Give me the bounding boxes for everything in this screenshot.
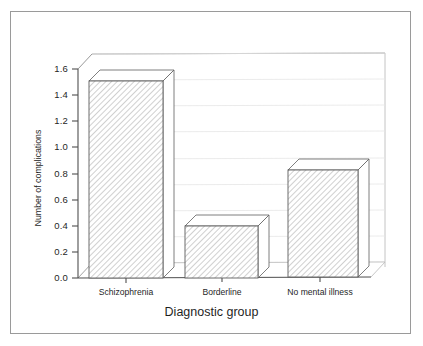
y-axis-title: Number of complications bbox=[33, 113, 43, 243]
bar-no-mental-illness[interactable] bbox=[288, 159, 369, 277]
y-tick-label: 0.0 bbox=[36, 272, 68, 283]
y-axis bbox=[72, 69, 78, 278]
y-tick-label: 1.4 bbox=[36, 89, 68, 100]
x-category-label-no-mental-illness: No mental illness bbox=[260, 287, 380, 297]
y-tick-label: 0.2 bbox=[36, 246, 68, 257]
bar-borderline[interactable] bbox=[185, 215, 269, 278]
plot-area: 1.6 1.4 1.2 1.0 0.8 0.6 0.4 0.2 0.0 Schi… bbox=[0, 0, 423, 346]
bar-schizophrenia[interactable] bbox=[89, 70, 174, 278]
y-tick-label: 1.6 bbox=[36, 63, 68, 74]
figure-container: 1.6 1.4 1.2 1.0 0.8 0.6 0.4 0.2 0.0 Schi… bbox=[0, 0, 423, 346]
x-axis-title: Diagnostic group bbox=[0, 305, 423, 319]
